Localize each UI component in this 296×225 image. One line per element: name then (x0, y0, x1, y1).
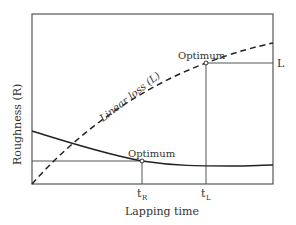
loss-optimum-marker (204, 61, 208, 65)
roughness-optimum-marker (140, 159, 144, 163)
x-axis-label: Lapping time (125, 205, 199, 218)
linear-loss-curve-label: Linear loss (L) (97, 70, 162, 124)
tick-tL: t L (201, 187, 211, 202)
y-axis-label: Roughness (R) (11, 84, 24, 165)
svg-text:L: L (206, 194, 211, 202)
l-marker-label: L (277, 57, 285, 70)
optimum-bottom-label: Optimum (128, 148, 176, 159)
tick-tR: t R (137, 187, 148, 202)
optimum-top-label: Optimum (178, 50, 226, 61)
svg-text:R: R (142, 194, 148, 202)
chart: Optimum Optimum L Linear loss (L) Roughn… (0, 0, 296, 225)
